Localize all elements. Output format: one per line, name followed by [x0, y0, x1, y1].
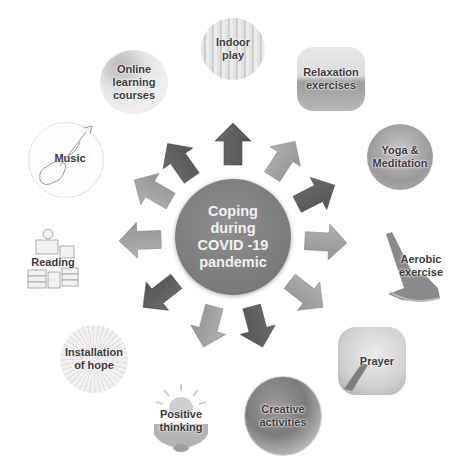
center-line: pandemic — [198, 254, 269, 271]
node-creative-activities: Creativeactivities — [244, 376, 322, 456]
arrow-right — [304, 223, 348, 261]
coping-diagram: Coping during COVID -19 pandemic Indoorp… — [0, 0, 455, 474]
center-line: during — [198, 220, 269, 237]
center-line: Coping — [198, 203, 269, 220]
arrow-down-right — [234, 302, 280, 352]
arrow-left-up — [125, 164, 179, 216]
arrow-down-left — [186, 302, 232, 352]
node-prayer: Prayer — [338, 327, 406, 395]
node-installation-of-hope: Installationof hope — [60, 325, 128, 393]
arrow-right-down — [279, 267, 334, 321]
arrow-right-up — [289, 169, 343, 220]
arrow-up-right — [257, 132, 310, 187]
center-topic: Coping during COVID -19 pandemic — [175, 179, 291, 295]
arrow-up — [215, 123, 251, 165]
arrow-left-down — [132, 267, 187, 321]
node-music: Music — [28, 122, 104, 198]
node-yoga-meditation: Yoga &Meditation — [367, 124, 433, 190]
node-aerobic-exercise: Aerobicexercise — [382, 232, 446, 304]
node-indoor-play: Indoorplay — [201, 18, 265, 80]
arrow-up-left — [153, 133, 207, 188]
node-reading: Reading — [22, 226, 84, 296]
node-online-learning-courses: Onlinelearningcourses — [100, 50, 168, 114]
arrow-left — [118, 222, 161, 259]
node-relaxation-exercises: Relaxationexercises — [297, 47, 365, 111]
center-line: COVID -19 — [198, 237, 269, 254]
node-positive-thinking: Positivethinking — [150, 382, 212, 456]
